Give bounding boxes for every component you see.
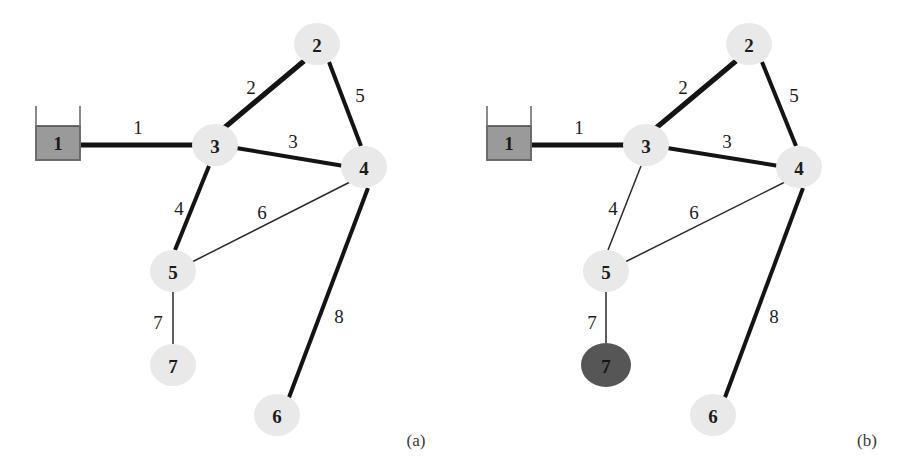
graph-node-4[interactable]: 4 xyxy=(776,146,822,188)
node-label: 2 xyxy=(312,35,322,56)
node-label: 7 xyxy=(601,356,611,377)
node-label: 6 xyxy=(708,406,718,427)
edge-label: 8 xyxy=(334,306,344,327)
node-layer: 1234567 xyxy=(36,23,387,436)
edge-label: 7 xyxy=(153,312,163,333)
edge-label: 4 xyxy=(608,198,618,219)
edge-label: 5 xyxy=(789,85,799,106)
graph-node-3[interactable]: 3 xyxy=(192,124,238,166)
graph-node-5[interactable]: 5 xyxy=(583,250,629,292)
panel-caption: (a) xyxy=(407,431,426,450)
graph-node-3[interactable]: 3 xyxy=(623,124,669,166)
node-label: 5 xyxy=(601,262,611,283)
graph-edge-8[interactable] xyxy=(724,188,803,400)
graph-node-4[interactable]: 4 xyxy=(341,146,387,188)
node-label: 4 xyxy=(794,158,804,179)
node-label: 3 xyxy=(641,136,651,157)
edge-label: 6 xyxy=(689,202,699,223)
edge-label: 6 xyxy=(257,202,267,223)
graph-edge-6[interactable] xyxy=(623,181,787,263)
edge-label: 2 xyxy=(678,77,688,98)
graph-node-7[interactable]: 7 xyxy=(581,343,631,387)
node-label: 5 xyxy=(168,262,178,283)
graph-edge-6[interactable] xyxy=(190,181,352,263)
edge-label: 8 xyxy=(769,306,779,327)
node-label: 7 xyxy=(168,356,178,377)
graph-node-1[interactable]: 1 xyxy=(36,106,80,160)
node-label: 1 xyxy=(53,133,63,154)
edge-label: 7 xyxy=(587,312,597,333)
node-label: 4 xyxy=(359,158,369,179)
figure-container: 123456712354678(a)123456712354678(b) xyxy=(0,0,903,468)
node-label: 1 xyxy=(504,133,514,154)
edge-label: 3 xyxy=(722,131,732,152)
edge-label: 1 xyxy=(133,117,143,138)
panel-caption: (b) xyxy=(857,431,877,450)
node-label: 2 xyxy=(744,35,754,56)
graph-edge-2[interactable] xyxy=(656,61,736,128)
graph-node-6[interactable]: 6 xyxy=(690,394,736,436)
graph-node-2[interactable]: 2 xyxy=(294,23,340,65)
edge-label: 3 xyxy=(288,131,298,152)
panel-b: 123456712354678(b) xyxy=(451,0,903,468)
edge-label: 4 xyxy=(174,198,184,219)
node-label: 6 xyxy=(272,406,282,427)
graph-node-2[interactable]: 2 xyxy=(726,23,772,65)
edge-layer xyxy=(81,61,368,400)
edge-label: 5 xyxy=(355,85,365,106)
edge-label: 1 xyxy=(574,117,584,138)
edge-label: 2 xyxy=(246,77,256,98)
graph-node-1[interactable]: 1 xyxy=(487,106,531,160)
graph-edge-8[interactable] xyxy=(288,188,368,400)
graph-node-7[interactable]: 7 xyxy=(150,344,196,386)
graph-edge-2[interactable] xyxy=(224,61,304,128)
node-label: 3 xyxy=(210,136,220,157)
edge-layer xyxy=(532,61,803,400)
graph-node-5[interactable]: 5 xyxy=(150,250,196,292)
panel-a: 123456712354678(a) xyxy=(0,0,452,468)
graph-node-6[interactable]: 6 xyxy=(254,394,300,436)
